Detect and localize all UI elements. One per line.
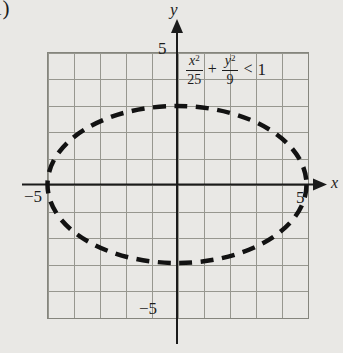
y-tick-negative-5: −5 xyxy=(139,300,157,317)
denominator-9: 9 xyxy=(227,71,234,87)
exponent-2: 2 xyxy=(195,53,200,63)
numerator-x-squared: x2 xyxy=(186,53,203,71)
less-than-sign: < xyxy=(243,61,252,79)
coordinate-grid xyxy=(47,52,309,319)
numerator-y-squared: y2 xyxy=(222,53,239,71)
problem-number: 1) xyxy=(0,0,10,21)
y-tick-positive-5: 5 xyxy=(158,40,167,57)
x-tick-positive-5: 5 xyxy=(296,189,305,206)
y-axis-arrow-icon xyxy=(171,19,183,33)
fraction-y-squared-over-9: y2 9 xyxy=(222,53,239,87)
x-axis-label: x xyxy=(331,175,338,191)
exponent-2: 2 xyxy=(231,53,236,63)
worksheet-figure: 1) y x 5 −5 −5 5 x2 25 + y2 9 < 1 xyxy=(0,0,343,353)
inequality-rhs: 1 xyxy=(258,61,267,80)
y-axis-label: y xyxy=(170,1,178,18)
plus-sign: + xyxy=(208,61,217,79)
x-tick-negative-5: −5 xyxy=(24,188,42,205)
inequality-label: x2 25 + y2 9 < 1 xyxy=(186,53,266,87)
denominator-25: 25 xyxy=(187,71,201,87)
fraction-x-squared-over-25: x2 25 xyxy=(186,53,203,87)
x-axis-arrow-icon xyxy=(313,179,327,191)
